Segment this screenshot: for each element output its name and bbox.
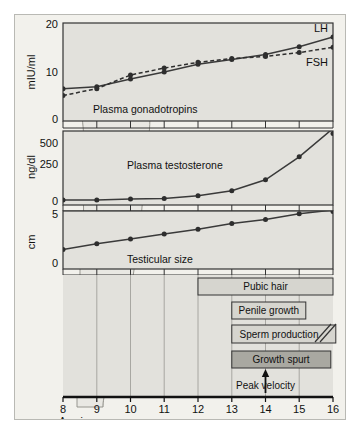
panel-testicular-size: 5 0 cm Testicular size bbox=[25, 208, 336, 269]
x-tick-12: 12 bbox=[192, 403, 204, 415]
tick-gonadotropins-20: 20 bbox=[46, 18, 58, 30]
x-axis-title: Age in years bbox=[59, 415, 117, 419]
tick-testicular-5: 5 bbox=[52, 208, 58, 220]
series-label-lh: LH bbox=[314, 22, 328, 34]
puberty-chart: 20 10 0 mIU/ml bbox=[15, 15, 345, 419]
x-tick-15: 15 bbox=[293, 403, 305, 415]
event-bar-pubic-hair[interactable]: Pubic hair bbox=[198, 278, 333, 295]
x-tick-8: 8 bbox=[60, 403, 66, 415]
event-bar-label-growth-spurt: Growth spurt bbox=[252, 354, 309, 365]
panel-label-gonadotropins: Plasma gonadotropins bbox=[93, 103, 197, 115]
tick-testosterone-250: 250 bbox=[40, 158, 58, 170]
x-tick-13: 13 bbox=[226, 403, 238, 415]
tick-testicular-0: 0 bbox=[52, 257, 58, 269]
event-bar-sperm-production[interactable]: Sperm production bbox=[232, 324, 336, 343]
tick-gonadotropins-0: 0 bbox=[52, 113, 58, 125]
event-bars-region: Pubic hair Penile growth Sperm productio… bbox=[63, 275, 336, 397]
axis-label-cm: cm bbox=[25, 235, 37, 250]
event-bar-penile-growth[interactable]: Penile growth bbox=[232, 302, 306, 319]
x-tick-14: 14 bbox=[259, 403, 271, 415]
x-tick-9: 9 bbox=[94, 403, 100, 415]
tick-gonadotropins-10: 10 bbox=[46, 66, 58, 78]
panel-testosterone: 500 250 0 ng/dl Plasma testosterone bbox=[25, 129, 336, 208]
figure-frame: 20 10 0 mIU/ml bbox=[14, 14, 346, 420]
tick-testosterone-0: 0 bbox=[52, 195, 58, 207]
peak-velocity-label: Peak velocity bbox=[236, 380, 295, 391]
event-bar-label-pubic-hair: Pubic hair bbox=[243, 281, 288, 292]
x-tick-16: 16 bbox=[327, 403, 339, 415]
panel-gonadotropins: 20 10 0 mIU/ml bbox=[25, 18, 336, 125]
x-tick-11: 11 bbox=[158, 403, 169, 415]
axis-label-miu-ml: mIU/ml bbox=[25, 55, 37, 90]
axis-label-ng-dl: ng/dl bbox=[25, 155, 37, 179]
event-bar-label-penile-growth: Penile growth bbox=[239, 305, 300, 316]
event-bar-growth-spurt[interactable]: Growth spurt bbox=[232, 351, 331, 368]
event-bar-label-sperm-production: Sperm production bbox=[240, 329, 319, 340]
panel-label-testosterone: Plasma testosterone bbox=[127, 159, 223, 171]
series-label-fsh: FSH bbox=[306, 56, 328, 68]
x-tick-10: 10 bbox=[124, 403, 136, 415]
panel-label-testicular-size: Testicular size bbox=[127, 253, 193, 265]
tick-testosterone-500: 500 bbox=[40, 137, 58, 149]
